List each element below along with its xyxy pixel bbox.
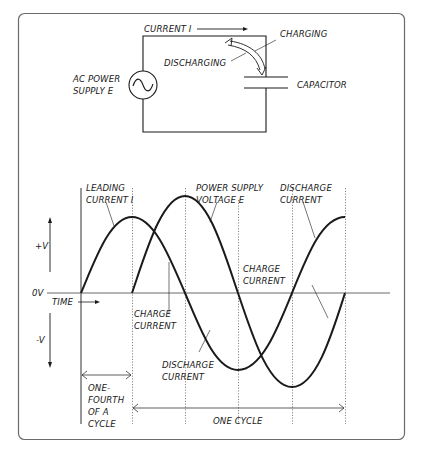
charge-current-right-label-line1: CHARGE bbox=[243, 264, 280, 274]
ac-source-label-line1: AC POWER bbox=[72, 74, 120, 84]
current-label: CURRENT I bbox=[144, 24, 192, 34]
discharge-current-bottom-label-line2: CURRENT bbox=[162, 372, 205, 382]
leading-current-label-line2: CURRENT I bbox=[86, 195, 134, 205]
one-cycle-label: ONE CYCLE bbox=[213, 416, 263, 426]
discharging-label: DISCHARGING bbox=[164, 58, 227, 68]
voltage-label-line1: POWER SUPPLY bbox=[196, 183, 264, 193]
negative-voltage-label: -V bbox=[36, 335, 46, 345]
capacitor-ac-diagram: CURRENT I CHARGING DISCHARGING AC POWER … bbox=[0, 0, 421, 455]
charge-current-left-label-line2: CURRENT bbox=[134, 321, 177, 331]
quarter-cycle-label-line1: ONE- bbox=[88, 383, 110, 393]
charge-current-right-label-line2: CURRENT bbox=[243, 276, 286, 286]
positive-voltage-label: +V bbox=[35, 241, 49, 251]
quarter-cycle-label-line2: FOURTH bbox=[88, 395, 125, 405]
discharge-current-bottom-label-line1: DISCHARGE bbox=[162, 360, 214, 370]
voltage-label-line2: VOLTAGE E bbox=[196, 195, 245, 205]
ac-source-label-line2: SUPPLY E bbox=[73, 86, 114, 96]
charge-current-left-label-line1: CHARGE bbox=[134, 309, 171, 319]
time-label: TIME bbox=[52, 297, 73, 307]
quarter-cycle-label-line3: OF A bbox=[88, 407, 109, 417]
quarter-cycle-label-line4: CYCLE bbox=[88, 419, 116, 429]
leading-current-label-line1: LEADING bbox=[86, 183, 125, 193]
charging-label: CHARGING bbox=[280, 29, 328, 39]
capacitor-label: CAPACITOR bbox=[297, 80, 347, 90]
zero-voltage-label: 0V bbox=[32, 288, 45, 298]
discharge-current-top-label-line1: DISCHARGE bbox=[280, 183, 332, 193]
discharge-current-top-label-line2: CURRENT bbox=[280, 195, 323, 205]
